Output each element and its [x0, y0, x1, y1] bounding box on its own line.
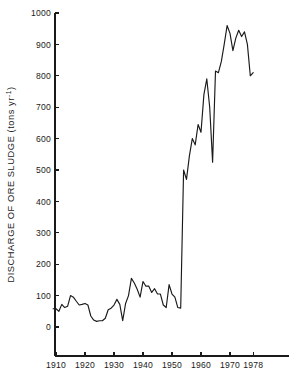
y-tick-label-0: 0	[46, 322, 51, 332]
y-tick-label-800: 800	[36, 71, 51, 81]
y-tick-label-200: 200	[36, 259, 51, 269]
y-tick-label-900: 900	[36, 40, 51, 50]
chart-tick-marks	[55, 13, 253, 356]
y-axis-title-text: DISCHARGE OF ORE SLUDGE (tons yr-1)	[5, 86, 16, 282]
y-tick-label-1000: 1000	[31, 8, 51, 18]
chart-figure: 01002003004005006007008009001000 1910192…	[0, 0, 299, 377]
y-tick-label-600: 600	[36, 134, 51, 144]
chart-plot-area: 01002003004005006007008009001000 1910192…	[0, 0, 299, 377]
x-tick-label-1970: 1970	[220, 360, 240, 370]
x-tick-label-1930: 1930	[104, 360, 124, 370]
y-tick-label-300: 300	[36, 228, 51, 238]
chart-data-series	[53, 26, 253, 322]
x-tick-label-1960: 1960	[191, 360, 211, 370]
x-tick-label-1940: 1940	[133, 360, 153, 370]
x-tick-label-1978: 1978	[243, 360, 263, 370]
chart-axes	[55, 13, 289, 356]
y-axis-title: DISCHARGE OF ORE SLUDGE (tons yr-1)	[5, 86, 16, 282]
x-axis-tick-labels: 19101920193019401950196019701978	[46, 360, 263, 370]
y-tick-label-100: 100	[36, 291, 51, 301]
x-tick-label-1910: 1910	[46, 360, 66, 370]
x-tick-label-1920: 1920	[75, 360, 95, 370]
series-line-0	[53, 26, 253, 322]
x-tick-label-1950: 1950	[162, 360, 182, 370]
y-tick-label-400: 400	[36, 197, 51, 207]
y-tick-label-500: 500	[36, 165, 51, 175]
y-tick-label-700: 700	[36, 102, 51, 112]
y-axis-tick-labels: 01002003004005006007008009001000	[31, 8, 51, 332]
